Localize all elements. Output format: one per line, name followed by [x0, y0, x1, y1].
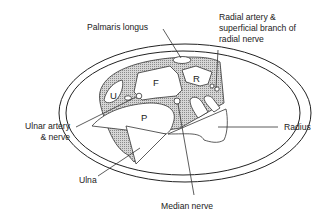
radial-artery-circle [210, 84, 214, 88]
ulnar-vessel-2 [136, 93, 142, 99]
label-radial-artery-3: radial nerve [219, 34, 264, 44]
label-palmaris-longus: Palmaris longus [87, 22, 148, 32]
median-nerve-circle [174, 98, 180, 104]
label-radial-artery-1: Radial artery & [219, 12, 276, 22]
marker-r: R [193, 73, 200, 84]
label-ulnar-artery-1: Ulnar artery [14, 121, 70, 131]
radial-nerve-circle [215, 87, 219, 91]
label-ulnar-artery-2: & nerve [14, 132, 70, 142]
marker-u: U [110, 90, 117, 101]
label-radius: Radius [284, 122, 311, 132]
label-radial-artery-2: superficial branch of [219, 23, 296, 33]
label-median-nerve: Median nerve [161, 201, 213, 211]
palmaris-longus-tendon [173, 57, 191, 64]
marker-p: P [141, 112, 147, 123]
label-ulna: Ulna [79, 175, 97, 185]
marker-f: F [153, 77, 159, 88]
